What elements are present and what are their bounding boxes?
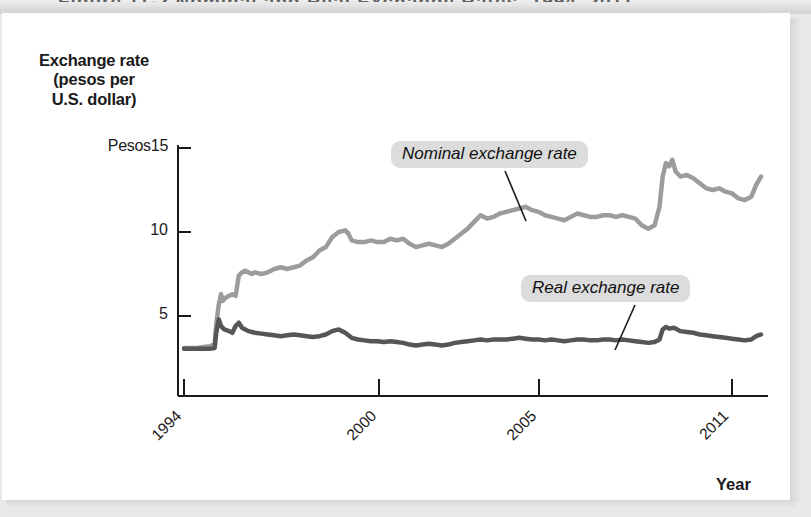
chart-panel: Exchange rate (pesos per U.S. dollar) Pe… <box>2 13 790 500</box>
scan-artifact-text: Figure 11-2 Nominal and Real Exchange Ra… <box>58 0 634 2</box>
annotation-real-exchange-rate: Real exchange rate <box>521 275 690 302</box>
annotation-nominal-exchange-rate: Nominal exchange rate <box>391 141 588 168</box>
leader-line-real <box>615 305 635 350</box>
scan-artifact-strip: Figure 11-2 Nominal and Real Exchange Ra… <box>0 0 811 14</box>
panel-shadow-bottom <box>6 500 796 508</box>
series-line-real-exchange-rate <box>184 319 761 348</box>
panel-shadow-right <box>790 18 800 502</box>
series-line-nominal-exchange-rate <box>184 160 761 348</box>
figure-root: Figure 11-2 Nominal and Real Exchange Ra… <box>0 0 811 517</box>
plot-area <box>2 13 790 500</box>
